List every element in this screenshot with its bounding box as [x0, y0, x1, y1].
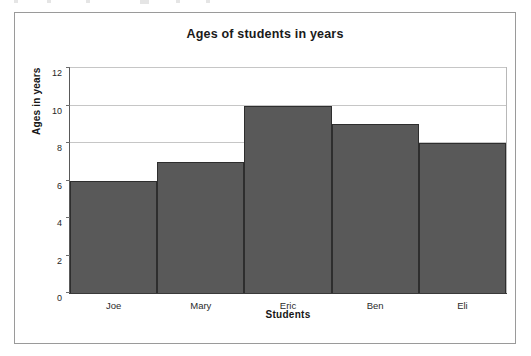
- bar-mary[interactable]: [157, 162, 244, 293]
- bar-series: [70, 68, 506, 293]
- scan-artifact-row: [0, 0, 531, 10]
- x-axis-title: Students: [70, 309, 506, 320]
- bar-joe[interactable]: [70, 181, 157, 294]
- bar-eli[interactable]: [419, 143, 506, 293]
- bar-eric[interactable]: [244, 106, 331, 294]
- x-axis-line: [69, 293, 507, 294]
- chart-frame: Ages of students in years 121086420 JoeM…: [14, 12, 516, 344]
- y-axis-title: Ages in years: [31, 67, 42, 135]
- bar-ben[interactable]: [332, 124, 419, 293]
- plot-area: 121086420 JoeMaryEricBenEli: [70, 67, 507, 293]
- chart-title: Ages of students in years: [15, 27, 515, 41]
